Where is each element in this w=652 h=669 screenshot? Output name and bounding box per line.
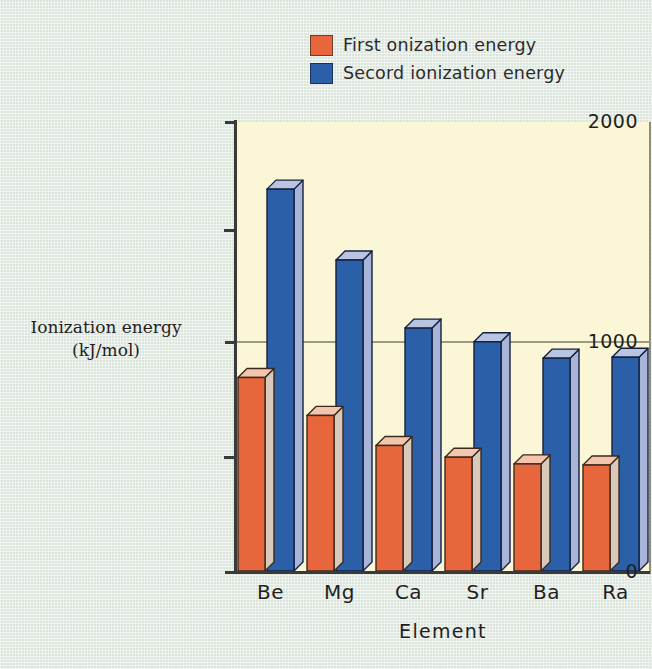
y-tick-0	[225, 571, 236, 574]
category-label-mg: Mg	[305, 580, 374, 604]
y-axis-line	[234, 120, 237, 574]
category-label-ca: Ca	[374, 580, 443, 604]
category-label-be: Be	[236, 580, 305, 604]
category-label-sr: Sr	[443, 580, 512, 604]
legend-swatch-blue	[310, 63, 333, 84]
legend-label-first-ionization: First onization energy	[343, 35, 536, 55]
y-tick-2000	[225, 121, 236, 124]
legend-swatch-orange	[310, 35, 333, 56]
y-axis-title-line1: Ionization energy	[6, 316, 206, 339]
chart-legend: First onization energy Secord ionization…	[310, 34, 565, 84]
category-label-ba: Ba	[512, 580, 581, 604]
category-label-ra: Ra	[581, 580, 650, 604]
y-tick-label-1000: 1000	[414, 330, 652, 352]
ionization-energy-bar-chart: First onization energy Secord ionization…	[0, 0, 652, 669]
y-tick-1000	[225, 341, 236, 344]
legend-label-second-ionization: Secord ionization energy	[343, 63, 565, 83]
x-axis-title: Element	[236, 620, 650, 642]
y-tick-label-0: 0	[414, 560, 652, 582]
y-axis-title-line2: (kJ/mol)	[6, 339, 206, 362]
y-tick-500	[224, 456, 236, 459]
y-tick-label-2000: 2000	[414, 110, 652, 132]
legend-item-second-ionization: Secord ionization energy	[310, 62, 565, 84]
y-axis-title: Ionization energy (kJ/mol)	[6, 316, 206, 362]
legend-item-first-ionization: First onization energy	[310, 34, 565, 56]
y-tick-1500	[224, 229, 236, 232]
